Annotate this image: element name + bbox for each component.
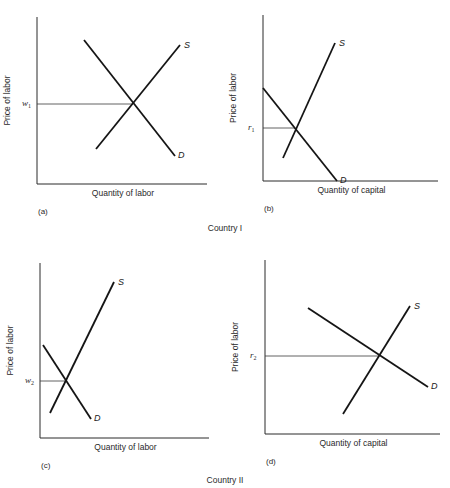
demand-label: D (94, 413, 101, 423)
chart-panel-d: S D r2 Price of labor Quantity of capita… (230, 260, 440, 466)
chart-panel-c: S D w2 Price of labor Quantity of labor … (5, 263, 209, 470)
x-axis-label: Quantity of capital (319, 438, 387, 448)
supply-label: S (184, 40, 190, 50)
equilibrium-price-label: r2 (250, 350, 257, 361)
y-axis-label: Price of labor (228, 73, 238, 123)
x-axis-label: Quantity of labor (92, 188, 155, 198)
demand-label: D (178, 150, 185, 160)
x-axis-label: Quantity of labor (94, 442, 157, 452)
panel-label: (c) (41, 461, 51, 470)
equilibrium-price-label: w2 (25, 375, 34, 386)
supply-curve (283, 43, 335, 158)
chart-panel-a: S D w1 Price of labor Quantity of labor … (2, 17, 207, 216)
supply-label: S (414, 301, 420, 311)
demand-label: D (340, 175, 347, 185)
x-axis-label: Quantity of capital (317, 185, 385, 195)
demand-curve (263, 88, 337, 181)
supply-demand-figure: S D w1 Price of labor Quantity of labor … (0, 0, 450, 488)
panel-label: (b) (264, 204, 274, 213)
y-axis-label: Price of labor (230, 322, 240, 372)
chart-panel-b: S D r1 Price of labor Quantity of capita… (228, 15, 438, 213)
group-caption-country-2: Country II (207, 475, 244, 485)
demand-curve (84, 40, 175, 156)
supply-curve (96, 45, 180, 149)
supply-curve (50, 282, 114, 413)
supply-label: S (118, 277, 124, 287)
supply-curve (343, 306, 410, 414)
demand-curve (43, 345, 91, 419)
demand-label: D (431, 381, 438, 391)
equilibrium-price-label: w1 (22, 98, 31, 109)
panel-label: (a) (38, 207, 48, 216)
y-axis-label: Price of labor (5, 325, 15, 375)
supply-label: S (339, 38, 345, 48)
panel-label: (d) (266, 457, 276, 466)
equilibrium-price-label: r1 (248, 122, 255, 133)
group-caption-country-1: Country I (208, 223, 243, 233)
y-axis-label: Price of labor (2, 75, 12, 125)
